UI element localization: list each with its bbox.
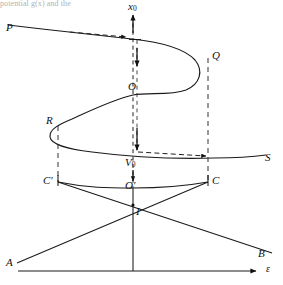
bifurcation-diagram-svg <box>0 0 283 285</box>
label-v0-sub: 0 <box>132 160 136 169</box>
intersection-point-i <box>131 203 134 206</box>
prime-mark-oprime: ′ <box>133 179 135 191</box>
dashed-arrow-upper-branch <box>70 32 126 37</box>
label-x0-sub: 0 <box>133 4 137 13</box>
label-b: B <box>258 248 265 259</box>
label-v0: V0 <box>125 157 135 169</box>
figure-container: potential g(x) and the <box>0 0 283 285</box>
label-c: C <box>212 175 219 186</box>
label-q: Q <box>212 50 220 61</box>
label-a: A <box>6 257 13 268</box>
label-r: R <box>46 115 53 126</box>
label-p: P <box>6 22 13 33</box>
label-i: I <box>136 206 140 217</box>
label-v0-text: V <box>125 156 132 168</box>
line-cprime-to-b <box>58 182 272 253</box>
label-o-prime-text: O <box>125 179 133 191</box>
prime-mark-cprime: ′ <box>50 174 52 186</box>
label-o-prime: O′ <box>125 180 135 191</box>
label-epsilon: ε <box>266 264 270 274</box>
label-o: O <box>128 81 136 92</box>
label-s: S <box>265 152 271 163</box>
dashed-arrow-lower-branch <box>138 152 206 156</box>
label-x0: x0 <box>128 1 137 13</box>
label-c-prime: C′ <box>43 175 53 186</box>
